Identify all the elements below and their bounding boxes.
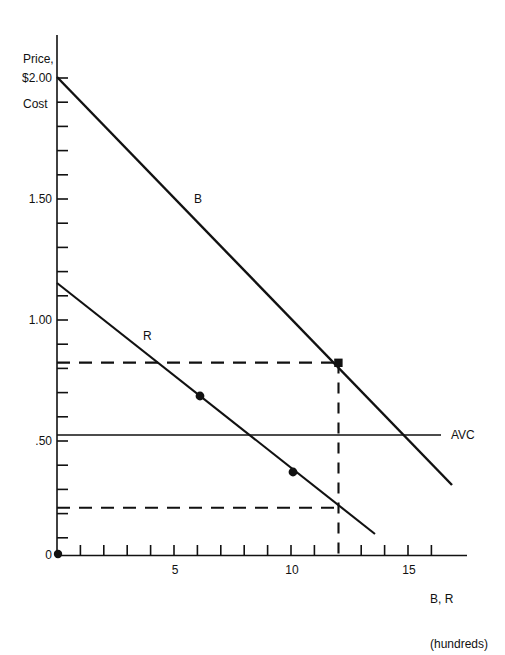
- y-axis-ticks: [57, 78, 68, 538]
- x-axis-title-line1: B, R: [430, 592, 505, 607]
- x-tick-label-10: 10: [281, 563, 303, 577]
- series-label-r: R: [143, 329, 152, 343]
- series-line-r: [57, 283, 375, 534]
- x-axis-ticks: [80, 545, 431, 556]
- series-line-b: [57, 77, 452, 485]
- y-tick-label-200: $2.00: [4, 71, 52, 85]
- y-axis-title-line1: Price,: [23, 52, 55, 67]
- x-axis-title-line2: (hundreds): [430, 637, 505, 652]
- x-axis-title: B, R (hundreds): [430, 562, 505, 655]
- y-tick-label-150: 1.50: [4, 192, 52, 206]
- y-tick-label-000: 0: [4, 548, 52, 562]
- x-tick-label-5: 5: [166, 563, 184, 577]
- y-tick-label-100: 1.00: [4, 313, 52, 327]
- marker-r-point-2: [289, 468, 298, 477]
- marker-r-point-1: [196, 392, 205, 401]
- y-axis-title-line2: Cost: [23, 97, 55, 112]
- x-tick-label-15: 15: [398, 563, 420, 577]
- series-label-avc: AVC: [451, 428, 475, 442]
- marker-origin-point: [54, 550, 62, 558]
- series-label-b: B: [194, 192, 202, 206]
- marker-b-square: [334, 359, 342, 367]
- y-tick-label-050: .50: [4, 434, 52, 448]
